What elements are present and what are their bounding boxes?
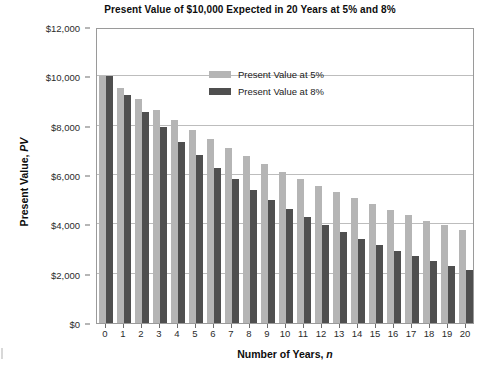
bar	[405, 215, 411, 323]
x-tick-label: 12	[316, 328, 327, 339]
bar	[376, 245, 382, 323]
legend-swatch-series-0	[209, 71, 231, 78]
bar	[430, 261, 436, 323]
y-tick-label: $2,000	[51, 269, 80, 280]
bar	[225, 148, 231, 323]
legend-item: Present Value at 5%	[209, 67, 359, 82]
y-tick-label: $0	[69, 319, 80, 330]
y-tick-mark	[85, 28, 90, 29]
x-tick-mark	[447, 324, 448, 328]
x-axis-title-symbol: n	[326, 348, 332, 360]
y-tick-mark	[85, 225, 90, 226]
bar	[297, 179, 303, 323]
x-tick-mark	[231, 324, 232, 328]
x-tick-label: 10	[280, 328, 291, 339]
y-axis-title-prefix: Present Value,	[18, 152, 30, 227]
bar	[423, 221, 429, 323]
bar	[160, 127, 166, 323]
bar	[106, 76, 112, 323]
x-axis: 01234567891011121314151617181920	[96, 328, 474, 344]
bar	[279, 172, 285, 323]
bar	[268, 200, 274, 323]
bar	[124, 95, 130, 323]
legend-item: Present Value at 8%	[209, 84, 359, 99]
y-tick-label: $12,000	[46, 23, 80, 34]
chart-title: Present Value of $10,000 Expected in 20 …	[0, 4, 500, 15]
x-tick-mark	[249, 324, 250, 328]
bar	[135, 99, 141, 323]
bar	[189, 130, 195, 323]
bar	[171, 120, 177, 323]
y-tick-mark	[85, 274, 90, 275]
bar	[369, 204, 375, 323]
bar	[286, 209, 292, 323]
x-tick-label: 5	[192, 328, 197, 339]
bar	[99, 76, 105, 323]
bar	[250, 190, 256, 323]
legend-label-series-0: Present Value at 5%	[238, 69, 324, 80]
bar	[466, 270, 472, 323]
bar	[207, 139, 213, 323]
bar	[315, 186, 321, 323]
chart-legend: Present Value at 5% Present Value at 8%	[209, 67, 359, 101]
bar	[178, 142, 184, 323]
x-tick-mark	[285, 324, 286, 328]
y-axis: $0$2,000$4,000$6,000$8,000$10,000$12,000	[0, 28, 90, 324]
y-tick-mark	[85, 77, 90, 78]
x-tick-mark	[213, 324, 214, 328]
y-tick-mark	[85, 176, 90, 177]
x-tick-label: 20	[460, 328, 471, 339]
present-value-bar-chart: Present Value of $10,000 Expected in 20 …	[0, 0, 500, 387]
x-axis-title: Number of Years, n	[96, 348, 474, 360]
bar	[153, 110, 159, 323]
bar	[412, 256, 418, 323]
y-tick-mark	[85, 324, 90, 325]
scan-artifact	[1, 348, 3, 359]
x-tick-label: 19	[442, 328, 453, 339]
x-tick-mark	[429, 324, 430, 328]
x-tick-label: 0	[102, 328, 107, 339]
bar	[261, 164, 267, 323]
x-tick-label: 3	[156, 328, 161, 339]
y-tick-label: $10,000	[46, 72, 80, 83]
x-tick-label: 13	[334, 328, 345, 339]
x-tick-label: 16	[388, 328, 399, 339]
x-tick-label: 8	[246, 328, 251, 339]
y-tick-mark	[85, 126, 90, 127]
y-tick-label: $6,000	[51, 171, 80, 182]
x-tick-label: 15	[370, 328, 381, 339]
bar	[441, 225, 447, 323]
x-tick-label: 14	[352, 328, 363, 339]
bar	[304, 217, 310, 323]
bar	[448, 266, 454, 323]
y-axis-title: Present Value, PV	[18, 112, 30, 252]
x-tick-mark	[195, 324, 196, 328]
x-tick-label: 11	[298, 328, 308, 339]
legend-swatch-series-1	[209, 88, 231, 95]
bar	[340, 232, 346, 323]
x-tick-mark	[303, 324, 304, 328]
x-tick-mark	[123, 324, 124, 328]
x-tick-mark	[321, 324, 322, 328]
x-tick-mark	[357, 324, 358, 328]
bar	[196, 155, 202, 323]
bar	[117, 88, 123, 323]
bar	[232, 179, 238, 323]
y-axis-title-symbol: PV	[18, 138, 30, 152]
bar	[322, 225, 328, 323]
y-tick-label: $4,000	[51, 220, 80, 231]
x-tick-label: 17	[406, 328, 417, 339]
x-tick-label: 9	[264, 328, 269, 339]
x-tick-label: 7	[228, 328, 233, 339]
bar	[333, 192, 339, 323]
x-tick-mark	[339, 324, 340, 328]
bar	[358, 239, 364, 323]
x-tick-mark	[159, 324, 160, 328]
x-tick-label: 2	[138, 328, 143, 339]
bar	[214, 168, 220, 323]
legend-label-series-1: Present Value at 8%	[238, 86, 324, 97]
bar	[394, 251, 400, 323]
bar	[351, 198, 357, 323]
y-tick-label: $8,000	[51, 121, 80, 132]
plot-area: Present Value at 5% Present Value at 8%	[96, 28, 474, 324]
